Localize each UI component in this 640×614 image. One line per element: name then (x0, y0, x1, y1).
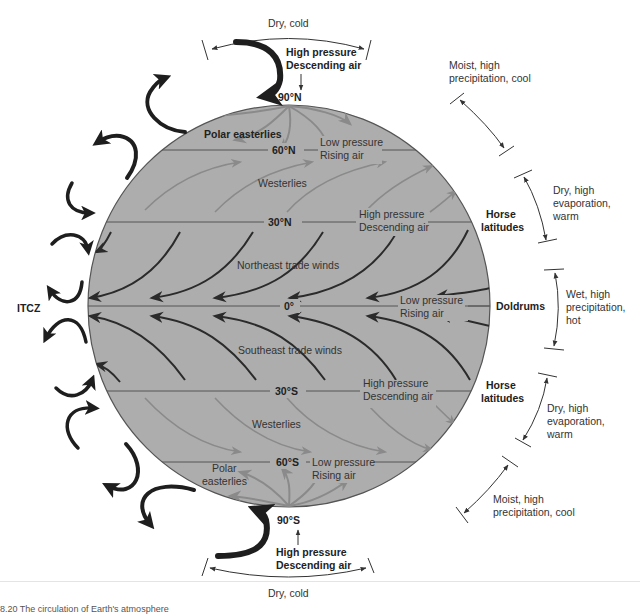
label-horse-latitudes-south-1: Horse (486, 379, 516, 391)
climate-s-polar-front-2: precipitation, cool (493, 506, 575, 518)
label-polar-easterlies-north: Polar easterlies (204, 128, 282, 140)
latitude-label-30n: 30°N (268, 216, 291, 228)
pressure-30s-line2: Descending air (363, 390, 434, 402)
cell-arrow-60s-lower (142, 487, 194, 524)
caption-divider (0, 581, 640, 582)
climate-s-polar-front-1: Moist, high (493, 493, 544, 505)
pressure-60s-line2: Rising air (312, 469, 356, 481)
pressure-60n-line2: Rising air (320, 149, 364, 161)
pressure-equator-line2: Rising air (400, 307, 444, 319)
climate-n-subtropic-1: Dry, high (553, 184, 594, 196)
climate-s-subtropic-1: Dry, high (547, 402, 588, 414)
climate-n-subtropic-2: evaporation, (553, 197, 611, 209)
cell-arrow-south-pole (218, 510, 267, 556)
latitude-label-90s: 90°S (277, 514, 300, 526)
cell-arrow-north-pole (236, 42, 280, 96)
latitude-label-60s: 60°S (276, 456, 299, 468)
climate-equatorial-2: precipitation, (566, 301, 626, 313)
cell-arrow-30n-lower (52, 235, 88, 250)
label-westerlies-south: Westerlies (252, 418, 301, 430)
pressure-30n-line2: Descending air (359, 221, 430, 233)
latitude-label-90n: 90°N (278, 91, 301, 103)
pressure-90s-line1: High pressure (276, 546, 347, 558)
label-itcz: ITCZ (17, 302, 41, 314)
label-horse-latitudes-north-1: Horse (486, 208, 516, 220)
pressure-90s-line2: Descending air (276, 559, 351, 571)
climate-equatorial-1: Wet, high (566, 288, 610, 300)
climate-n-polar-front-2: precipitation, cool (449, 72, 531, 84)
pressure-60n-line1: Low pressure (320, 136, 383, 148)
figure-caption: 8.20 The circulation of Earth's atmosphe… (0, 604, 169, 614)
cell-arrow-30s-lower (67, 408, 94, 448)
climate-s-subtropic-3: warm (546, 428, 573, 440)
cell-arrow-30s-upper (56, 380, 92, 396)
pressure-90n-line2: Descending air (286, 59, 361, 71)
cell-arrow-itcz-upper (50, 282, 82, 302)
label-polar-easterlies-south-1: Polar (212, 462, 237, 474)
label-horse-latitudes-north-2: latitudes (481, 221, 524, 233)
climate-top: Dry, cold (268, 17, 309, 29)
cell-arrow-30n-upper (68, 183, 90, 213)
pressure-equator-line1: Low pressure (400, 294, 463, 306)
cell-arrow-itcz-lower (46, 320, 86, 342)
latitude-label-equator: 0° (284, 300, 294, 312)
pressure-90n-line1: High pressure (286, 46, 357, 58)
latitude-label-30s: 30°S (275, 385, 298, 397)
cell-arrow-60n-upper (147, 78, 185, 132)
pressure-30n-line1: High pressure (359, 208, 425, 220)
pressure-60s-line1: Low pressure (312, 456, 375, 468)
label-northeast-trade-winds: Northeast trade winds (237, 259, 339, 271)
cell-arrow-60n-lower (98, 136, 136, 178)
climate-n-subtropic-3: warm (552, 210, 579, 222)
climate-n-polar-front-1: Moist, high (449, 59, 500, 71)
latitude-label-60n: 60°N (272, 144, 295, 156)
cell-arrow-60s-upper (108, 444, 138, 490)
label-horse-latitudes-south-2: latitudes (481, 392, 524, 404)
label-westerlies-north: Westerlies (258, 177, 307, 189)
pressure-30s-line1: High pressure (363, 377, 429, 389)
label-polar-easterlies-south-2: easterlies (202, 475, 247, 487)
climate-equatorial-3: hot (566, 314, 581, 326)
label-doldrums: Doldrums (496, 300, 545, 312)
label-southeast-trade-winds: Southeast trade winds (238, 344, 342, 356)
climate-bottom: Dry, cold (268, 587, 309, 599)
climate-s-subtropic-2: evaporation, (547, 415, 605, 427)
